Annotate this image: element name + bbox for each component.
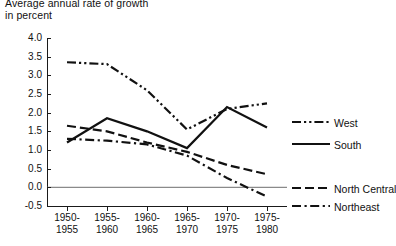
legend-label-northeast: Northeast: [334, 202, 380, 213]
y-tick-mark: [47, 113, 51, 114]
y-tick-mark: [47, 131, 51, 132]
plot-area: [47, 38, 287, 206]
legend-label-south: South: [334, 140, 361, 151]
y-tick-label: -0.5: [25, 201, 42, 211]
y-tick-mark: [47, 150, 51, 151]
series-line-west: [67, 62, 267, 129]
y-tick-mark: [47, 75, 51, 76]
x-tick-label-line: 1975-: [242, 212, 292, 224]
series-line-south: [67, 107, 267, 148]
y-tick-mark: [47, 206, 51, 207]
y-tick-mark: [47, 187, 51, 188]
y-tick-label: 2.0: [28, 108, 42, 118]
x-tick-mark: [227, 206, 228, 211]
x-axis-line: [47, 206, 287, 207]
series-line-north-central: [67, 126, 267, 175]
y-tick-label: 1.5: [28, 126, 42, 136]
chart-title-line-1: Average annual rate of growth: [5, 0, 148, 9]
y-tick-label: 3.0: [28, 70, 42, 80]
y-tick-label: 4.0: [28, 33, 42, 43]
y-tick-mark: [47, 38, 51, 39]
x-tick-mark: [187, 206, 188, 211]
x-tick-mark: [267, 206, 268, 211]
y-tick-mark: [47, 169, 51, 170]
x-tick-mark: [107, 206, 108, 211]
legend-label-west: West: [334, 118, 358, 129]
y-tick-label: 0.5: [28, 164, 42, 174]
y-tick-mark: [47, 94, 51, 95]
y-tick-mark: [47, 57, 51, 58]
x-tick-mark: [67, 206, 68, 211]
y-axis-labels: 4.03.53.02.52.01.51.00.50.0-0.5: [8, 38, 42, 206]
series-lines: [47, 38, 287, 206]
x-tick-label-line: 1980: [242, 224, 292, 236]
y-tick-label: 2.5: [28, 89, 42, 99]
chart-title-line-2: in percent: [5, 9, 148, 21]
chart-title: Average annual rate of growth in percent: [5, 0, 148, 21]
y-tick-label: 3.5: [28, 52, 42, 62]
legend-label-north-central: North Central: [334, 184, 396, 195]
x-tick-mark: [147, 206, 148, 211]
y-tick-label: 1.0: [28, 145, 42, 155]
x-tick-label: 1975-1980: [242, 212, 292, 235]
y-tick-label: 0.0: [28, 182, 42, 192]
